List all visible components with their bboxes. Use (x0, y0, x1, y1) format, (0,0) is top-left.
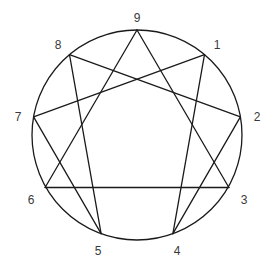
enneagram-circle (32, 30, 242, 240)
point-label-7: 7 (15, 110, 22, 124)
point-label-8: 8 (55, 38, 62, 52)
enneagram-point-labels: 123456789 (15, 11, 261, 258)
point-label-2: 2 (254, 110, 261, 124)
triangle-edge-6-9 (45, 30, 137, 188)
enneagram-triangle (45, 30, 229, 188)
enneagram-hexad (34, 55, 241, 234)
point-label-1: 1 (214, 38, 221, 52)
triangle-edge-9-3 (137, 30, 229, 188)
point-label-4: 4 (174, 244, 181, 258)
enneagram-diagram: 123456789 (0, 0, 276, 269)
enneagram-canvas: 123456789 (0, 0, 276, 269)
point-label-3: 3 (241, 193, 248, 207)
circle-group (32, 30, 242, 240)
point-label-6: 6 (28, 193, 35, 207)
point-label-5: 5 (95, 244, 102, 258)
point-label-9: 9 (134, 11, 141, 25)
